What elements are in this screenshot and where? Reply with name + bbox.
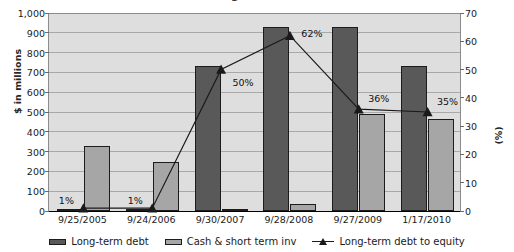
legend-item[interactable]: Long-term debt [49,236,149,247]
data-label-debt-to-equity: 50% [233,76,254,87]
y-axis-tick-label-left: 900 [0,27,45,38]
legend-label: Long-term debt [71,236,149,247]
y-axis-tick-label-right: 10 [465,177,505,188]
y-axis-tick-label-right: 30 [465,121,505,132]
legend-item[interactable]: Cash & short term inv [165,236,297,247]
y-axis-tick-label-right: 20 [465,149,505,160]
y-axis-tick-label-left: 400 [0,126,45,137]
chart-container: Long-term debt $ in millions (%) 0100200… [0,0,514,252]
y-axis-tick-label-left: 100 [0,186,45,197]
y-axis-tick-label-left: 200 [0,166,45,177]
data-label-debt-to-equity: 1% [128,195,143,206]
y-axis-tick-label-left: 800 [0,47,45,58]
y-axis-tick-label-right: 50 [465,64,505,75]
x-axis-tick-label: 9/30/2007 [196,214,245,225]
x-axis-tick-label: 9/27/2009 [333,214,382,225]
x-axis-tick-label: 9/25/2005 [58,214,107,225]
y-axis-tick-label-left: 600 [0,87,45,98]
y-axis-tick-label-right: 0 [465,206,505,217]
y-axis-tick-label-left: 500 [0,107,45,118]
x-axis-tick-label: 9/24/2006 [127,214,176,225]
legend-item[interactable]: Long-term debt to equity [312,236,464,247]
y-axis-tick-label-left: 700 [0,67,45,78]
x-axis-tick-label: 9/28/2008 [265,214,314,225]
data-labels-layer: 1%1%50%62%36%35% [49,13,460,211]
data-label-debt-to-equity: 1% [59,195,74,206]
y-axis-tick-label-right: 70 [465,8,505,19]
y-axis-tick-label-right: 60 [465,36,505,47]
data-label-debt-to-equity: 35% [437,96,458,107]
chart-title-clipped: Long-term debt [0,0,514,1]
x-axis-tick-label: 1/17/2010 [402,214,451,225]
legend-label: Cash & short term inv [187,236,297,247]
legend-swatch-icon [49,239,66,245]
legend-swatch-icon [165,239,182,245]
data-label-debt-to-equity: 36% [368,93,389,104]
y-axis-tick-label-right: 40 [465,92,505,103]
data-label-debt-to-equity: 62% [301,27,322,38]
legend-label: Long-term debt to equity [339,236,464,247]
y-axis-tick-label-left: 0 [0,206,45,217]
chart-legend: Long-term debtCash & short term invLong-… [0,236,514,247]
plot-area: 01002003004005006007008009001,0000102030… [48,13,461,211]
legend-line-triangle-icon [312,237,334,246]
y-axis-tick-label-left: 1,000 [0,8,45,19]
y-axis-tick-label-left: 300 [0,146,45,157]
